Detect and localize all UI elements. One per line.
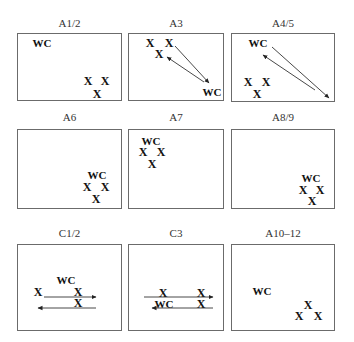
wc-token: WC — [253, 286, 272, 297]
panel-box-a4-5 — [231, 33, 335, 102]
x-token: X — [308, 195, 317, 207]
panel-label-a10-12: A10–12 — [265, 227, 300, 239]
panel-label-a3: A3 — [169, 17, 182, 29]
x-token: X — [314, 310, 323, 322]
x-token: X — [316, 184, 325, 196]
x-token: X — [148, 158, 157, 170]
x-token: X — [155, 48, 164, 60]
panel-box-a8-9 — [231, 129, 335, 209]
panel-label-a1-2: A1/2 — [59, 17, 81, 29]
x-token: X — [93, 88, 102, 100]
panel-label-c3: C3 — [170, 227, 183, 239]
panel-label-a4-5: A4/5 — [272, 17, 294, 29]
wc-token: WC — [33, 38, 52, 49]
x-token: X — [101, 181, 110, 193]
x-token: X — [262, 76, 271, 88]
x-token: X — [101, 75, 110, 87]
x-token: X — [92, 193, 101, 205]
x-token: X — [34, 286, 43, 298]
x-token: X — [295, 310, 304, 322]
x-token: X — [139, 146, 148, 158]
x-token: X — [83, 181, 92, 193]
x-token: X — [299, 184, 308, 196]
panel-label-c1-2: C1/2 — [59, 227, 80, 239]
wc-token: WC — [249, 38, 268, 49]
wc-token: WC — [57, 275, 76, 286]
x-token: X — [84, 75, 93, 87]
panel-box-c3 — [128, 244, 224, 331]
x-token: X — [146, 37, 155, 49]
panel-label-a6: A6 — [63, 111, 76, 123]
wc-token: WC — [155, 299, 174, 310]
x-token: X — [304, 299, 313, 311]
x-token: X — [157, 146, 166, 158]
x-token: X — [253, 88, 262, 100]
x-token: X — [244, 76, 253, 88]
wc-token: WC — [302, 173, 321, 184]
x-token: X — [74, 297, 83, 309]
panel-label-a7: A7 — [169, 111, 182, 123]
wc-token: WC — [88, 170, 107, 181]
panel-label-a8-9: A8/9 — [272, 111, 294, 123]
wc-token: WC — [203, 87, 222, 98]
x-token: X — [165, 37, 174, 49]
x-token: X — [197, 298, 206, 310]
